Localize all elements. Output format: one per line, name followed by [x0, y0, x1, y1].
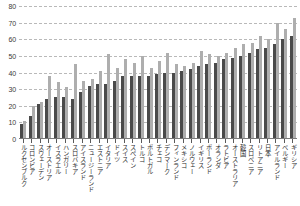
x-axis-ticks [19, 139, 297, 143]
x-axis-category-label-cell: スロベニア [246, 144, 254, 206]
bar-group [112, 6, 120, 139]
y-axis-tick-label: 30 [0, 86, 16, 93]
x-axis-tick [162, 139, 170, 143]
x-axis-category-label: オーストリア [45, 144, 52, 206]
x-axis-category-label-cell: ノルウェー [187, 144, 195, 206]
bar [175, 64, 178, 139]
x-axis-category-label-cell: チェコ [154, 144, 162, 206]
bar-group [230, 6, 238, 139]
x-axis-category-label: リトアニア [256, 144, 263, 206]
bar-group [70, 6, 78, 139]
bar-group [289, 6, 297, 139]
bar-group [196, 6, 204, 139]
bar-group [162, 6, 170, 139]
x-axis-category-label-cell: アイルランド [272, 144, 280, 206]
bar-group [280, 6, 288, 139]
bar [82, 81, 85, 139]
x-axis-category-label: スウェーデン [37, 144, 44, 206]
bar [99, 71, 102, 139]
bar [23, 121, 26, 139]
x-axis-category-label-cell: スロバキア [70, 144, 78, 206]
x-axis-tick [120, 139, 128, 143]
bar [74, 64, 77, 139]
bar [150, 68, 153, 139]
bar [133, 63, 136, 139]
x-axis-category-label-cell: オーストラリア [230, 144, 238, 206]
x-axis-tick [238, 139, 246, 143]
x-axis-category-label-cell: エストニア [95, 144, 103, 206]
bar [234, 48, 237, 139]
x-axis-tick [263, 139, 271, 143]
bar-group [221, 6, 229, 139]
bar [242, 44, 245, 139]
x-axis-category-label-cell: 韓国 [238, 144, 246, 206]
x-axis-category-label: チェコ [155, 144, 162, 206]
x-axis-category-label-cell: スウェーデン [36, 144, 44, 206]
plot-area [19, 6, 297, 139]
bar-series-container [19, 6, 297, 139]
x-axis-category-label: ポーランド [205, 144, 212, 206]
bar-group [61, 6, 69, 139]
bar-group [128, 6, 136, 139]
bar-chart: 01020304050607080 ルクセンブルクコロンビアスウェーデンオースト… [0, 0, 300, 206]
x-axis-category-label-cell: トルコ [137, 144, 145, 206]
x-axis-tick [280, 139, 288, 143]
bar-group [246, 6, 254, 139]
x-axis-tick [179, 139, 187, 143]
bar-group [137, 6, 145, 139]
bar-group [263, 6, 271, 139]
x-axis-category-label: スペイン [129, 144, 136, 206]
x-axis-tick [246, 139, 254, 143]
x-axis-tick [53, 139, 61, 143]
x-axis-tick [204, 139, 212, 143]
bar [293, 18, 296, 139]
bar [276, 23, 279, 139]
y-axis-tick-label: 50 [0, 52, 16, 59]
y-axis-tick-label: 40 [0, 69, 16, 76]
x-axis-category-label-cell: ハンガリー [61, 144, 69, 206]
y-axis-tick-label: 60 [0, 36, 16, 43]
x-axis-tick [78, 139, 86, 143]
x-axis-category-label: コロンビア [28, 144, 35, 206]
x-axis-category-label: スロバキア [70, 144, 77, 206]
x-axis-tick [19, 139, 27, 143]
x-axis-category-label-cell: オランダ [213, 144, 221, 206]
x-axis-category-label-cell: ルクセンブルク [19, 144, 27, 206]
bar-group [204, 6, 212, 139]
x-axis-category-label-cell: ポルトガル [145, 144, 153, 206]
x-axis-category-label-cell: イギリス [196, 144, 204, 206]
bar [217, 56, 220, 139]
x-axis-category-label-cell: スイス [120, 144, 128, 206]
x-axis-category-label: 日本 [264, 144, 271, 206]
x-axis-category-label-cell: フィンランド [171, 144, 179, 206]
x-axis-category-label: ルクセンブルク [20, 144, 27, 206]
x-axis-category-label-cell: ラトビア [221, 144, 229, 206]
x-axis-category-label-cell: ポーランド [204, 144, 212, 206]
x-axis-tick [154, 139, 162, 143]
x-axis-category-label-cell: ニュージーランド [86, 144, 94, 206]
bar [225, 53, 228, 139]
y-axis-tick-label: 0 [0, 136, 16, 143]
x-axis-category-label-cell: イスラエル [53, 144, 61, 206]
x-axis-category-label: フィンランド [172, 144, 179, 206]
x-axis-category-label-cell: コロンビア [27, 144, 35, 206]
bar [141, 56, 144, 139]
x-axis-tick [86, 139, 94, 143]
x-axis-category-label: ドイツ [113, 144, 120, 206]
bar-group [171, 6, 179, 139]
bar [200, 51, 203, 139]
x-axis-category-label: 韓国 [239, 144, 246, 206]
x-axis-category-label-cell: メキシコ [179, 144, 187, 206]
x-axis-category-label: デンマーク [163, 144, 170, 206]
x-axis-category-labels: ルクセンブルクコロンビアスウェーデンオーストリアイスラエルハンガリースロバキアア… [19, 144, 297, 206]
bar-group [44, 6, 52, 139]
bar [91, 79, 94, 139]
x-axis-category-label-cell: イタリア [103, 144, 111, 206]
x-axis-tick [61, 139, 69, 143]
x-axis-category-label: アイスランド [79, 144, 86, 206]
x-axis-category-label: エストニア [96, 144, 103, 206]
bar-group [272, 6, 280, 139]
x-axis-category-label-cell: スペイン [128, 144, 136, 206]
x-axis-category-label-cell: ベルギー [280, 144, 288, 206]
x-axis-tick [221, 139, 229, 143]
